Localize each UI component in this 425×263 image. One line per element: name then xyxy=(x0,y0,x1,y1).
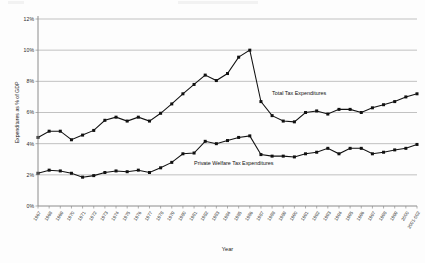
y-tick-label: 0% xyxy=(27,203,35,209)
x-tick-label: 1968 xyxy=(44,210,54,222)
x-tick-label: 1993 xyxy=(322,210,332,222)
data-point-marker xyxy=(92,174,95,177)
data-point-marker xyxy=(126,170,129,173)
x-tick-label: 1991 xyxy=(300,210,310,222)
data-point-marker xyxy=(215,142,218,145)
data-point-marker xyxy=(126,120,129,123)
data-point-marker xyxy=(271,114,274,117)
x-tick-label: 1998 xyxy=(378,210,388,222)
data-point-marker xyxy=(226,72,229,75)
x-tick-label: 1981 xyxy=(188,210,198,222)
data-point-marker xyxy=(181,92,184,95)
data-point-marker xyxy=(349,108,352,111)
data-point-marker xyxy=(59,130,62,133)
data-point-marker xyxy=(416,92,419,95)
data-point-marker xyxy=(404,147,407,150)
data-point-marker xyxy=(259,100,262,103)
x-tick-label: 1969 xyxy=(55,210,65,222)
data-point-marker xyxy=(293,120,296,123)
x-tick-label: 1985 xyxy=(233,210,243,222)
x-tick-label: 1990 xyxy=(289,210,299,222)
series-line-2 xyxy=(38,136,417,177)
y-tick-label: 10% xyxy=(24,47,35,53)
data-point-marker xyxy=(81,176,84,179)
data-point-marker xyxy=(371,106,374,109)
data-point-marker xyxy=(382,103,385,106)
data-point-marker xyxy=(193,152,196,155)
data-point-marker xyxy=(193,83,196,86)
data-point-marker xyxy=(315,151,318,154)
plot-area: 0%2%4%6%8%10%12% 19671968196919701971197… xyxy=(0,0,425,263)
data-point-marker xyxy=(337,152,340,155)
y-axis-ticks-group: 0%2%4%6%8%10%12% xyxy=(24,16,38,209)
data-point-marker xyxy=(393,148,396,151)
x-tick-label: 1982 xyxy=(200,210,210,222)
x-tick-label: 1970 xyxy=(66,210,76,222)
chart-figure: 0%2%4%6%8%10%12% 19671968196919701971197… xyxy=(0,0,425,263)
data-point-marker xyxy=(103,171,106,174)
series-annotation-1: Total Tax Expenditures xyxy=(272,90,326,96)
data-point-marker xyxy=(48,169,51,172)
data-point-marker xyxy=(382,151,385,154)
x-tick-label: 1995 xyxy=(345,210,355,222)
data-point-marker xyxy=(148,171,151,174)
data-point-marker xyxy=(181,152,184,155)
x-tick-label: 1992 xyxy=(311,210,321,222)
x-tick-label: 1987 xyxy=(255,210,265,222)
x-tick-label: 1975 xyxy=(122,210,132,222)
x-tick-label: 1989 xyxy=(278,210,288,222)
data-point-marker xyxy=(248,49,251,52)
data-point-marker xyxy=(148,120,151,123)
data-point-marker xyxy=(349,147,352,150)
data-point-marker xyxy=(248,134,251,137)
x-tick-label: 1977 xyxy=(144,210,154,222)
data-point-marker xyxy=(237,136,240,139)
x-axis-ticks-group: 1967196819691970197119721973197419751976… xyxy=(32,206,421,230)
x-tick-label: 1988 xyxy=(266,210,276,222)
data-point-marker xyxy=(170,161,173,164)
x-tick-label: 1972 xyxy=(88,210,98,222)
data-point-marker xyxy=(271,155,274,158)
x-tick-label: 1979 xyxy=(166,210,176,222)
data-point-marker xyxy=(92,129,95,132)
data-point-marker xyxy=(137,116,140,119)
data-point-marker xyxy=(170,102,173,105)
data-point-marker xyxy=(337,108,340,111)
data-point-marker xyxy=(259,153,262,156)
data-point-marker xyxy=(393,100,396,103)
x-tick-label: 1999 xyxy=(389,210,399,222)
data-point-marker xyxy=(48,130,51,133)
series-annotation-2: Private Welfare Tax Expenditures xyxy=(194,160,274,166)
data-point-marker xyxy=(404,95,407,98)
x-tick-label: 1976 xyxy=(133,210,143,222)
x-tick-label: 1980 xyxy=(177,210,187,222)
x-tick-label: 2000 xyxy=(400,210,410,222)
x-tick-label: 1978 xyxy=(155,210,165,222)
series-group xyxy=(37,49,419,179)
data-point-marker xyxy=(59,169,62,172)
data-point-marker xyxy=(360,147,363,150)
data-point-marker xyxy=(304,111,307,114)
data-point-marker xyxy=(204,74,207,77)
data-point-marker xyxy=(416,143,419,146)
series-line-1 xyxy=(38,50,417,140)
y-tick-label: 4% xyxy=(27,141,35,147)
gridlines-group xyxy=(38,19,417,175)
data-point-marker xyxy=(326,147,329,150)
data-point-marker xyxy=(70,172,73,175)
data-point-marker xyxy=(326,113,329,116)
x-tick-label: 1973 xyxy=(99,210,109,222)
line-chart: 0%2%4%6%8%10%12% 19671968196919701971197… xyxy=(0,0,425,263)
data-point-marker xyxy=(81,134,84,137)
data-point-marker xyxy=(371,152,374,155)
data-point-marker xyxy=(304,152,307,155)
data-point-marker xyxy=(237,56,240,59)
y-tick-label: 6% xyxy=(27,109,35,115)
data-point-marker xyxy=(204,140,207,143)
data-point-marker xyxy=(159,166,162,169)
x-tick-label: 1971 xyxy=(77,210,87,222)
x-tick-label: 1983 xyxy=(211,210,221,222)
y-tick-label: 12% xyxy=(24,16,35,22)
data-point-marker xyxy=(159,112,162,115)
data-point-marker xyxy=(315,109,318,112)
